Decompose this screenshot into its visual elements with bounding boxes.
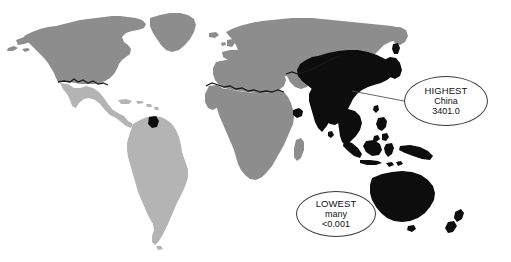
region-greenland xyxy=(150,13,196,52)
region-sulawesi xyxy=(384,143,394,157)
region-mexico xyxy=(60,83,133,128)
region-iceland xyxy=(209,32,219,38)
region-north-america xyxy=(24,16,146,84)
region-somalia xyxy=(293,108,303,118)
map-tier-low xyxy=(60,83,188,250)
region-tierra-del-fuego xyxy=(156,246,163,250)
region-tasmania xyxy=(407,225,416,232)
region-new-guinea xyxy=(399,145,433,160)
region-lesser-sunda xyxy=(386,161,403,167)
region-southeast-asia xyxy=(338,109,362,145)
region-java xyxy=(360,160,382,165)
region-caribbean xyxy=(118,99,159,110)
world-map-figure: HIGHEST China 3401.0 LOWEST many <0.001 xyxy=(0,0,511,262)
world-map-graphic xyxy=(0,0,511,262)
region-northeast-russia xyxy=(390,27,408,45)
callout-lowest-title: LOWEST xyxy=(316,199,357,210)
region-australia xyxy=(370,171,435,222)
callout-highest-title: HIGHEST xyxy=(425,86,468,97)
region-sumatra xyxy=(343,140,362,158)
region-sakhalin xyxy=(392,43,400,54)
region-sub-saharan-africa xyxy=(216,88,294,180)
region-sri-lanka xyxy=(328,131,334,138)
callout-highest: HIGHEST China 3401.0 xyxy=(404,76,488,126)
region-borneo xyxy=(363,140,382,156)
region-south-america xyxy=(127,116,188,245)
region-philippines xyxy=(373,117,389,142)
callout-highest-value: 3401.0 xyxy=(432,106,460,116)
region-alaska xyxy=(7,36,34,52)
callout-lowest-subject: many xyxy=(325,209,347,219)
callout-highest-subject: China xyxy=(434,96,458,106)
region-taiwan xyxy=(373,105,379,113)
callout-lowest: LOWEST many <0.001 xyxy=(296,191,376,237)
region-british-isles xyxy=(221,39,235,47)
leader-line-highest xyxy=(352,91,404,101)
region-new-zealand xyxy=(445,209,464,233)
callout-lowest-value: <0.001 xyxy=(322,219,350,229)
leader-lines xyxy=(352,91,404,101)
region-madagascar xyxy=(294,138,304,161)
